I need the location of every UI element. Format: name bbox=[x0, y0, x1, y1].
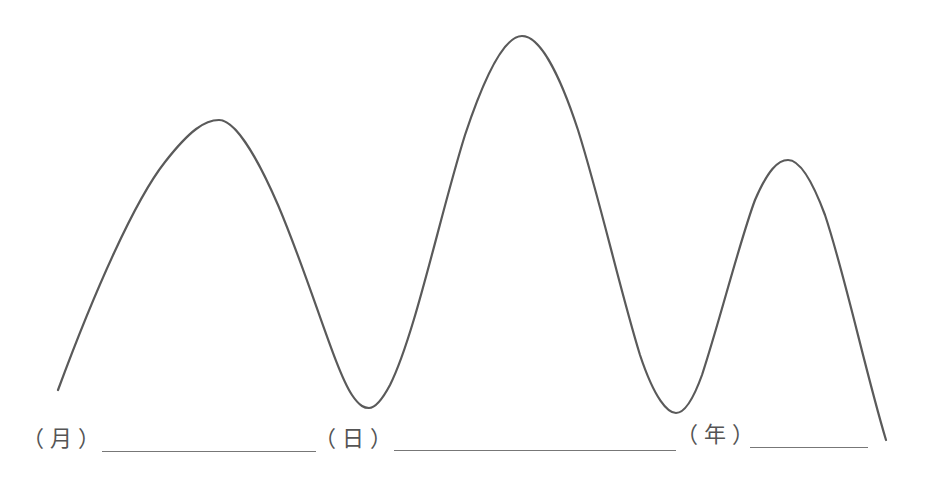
wave-curve-diagram bbox=[0, 0, 935, 479]
answer-blank-2[interactable] bbox=[394, 450, 676, 451]
answer-blank-1[interactable] bbox=[102, 451, 316, 452]
label-day: （日） bbox=[314, 424, 398, 454]
answer-blank-3[interactable] bbox=[750, 447, 868, 448]
wave-curve bbox=[58, 36, 886, 440]
label-year: （年） bbox=[676, 420, 760, 450]
label-month: （月） bbox=[22, 424, 106, 454]
